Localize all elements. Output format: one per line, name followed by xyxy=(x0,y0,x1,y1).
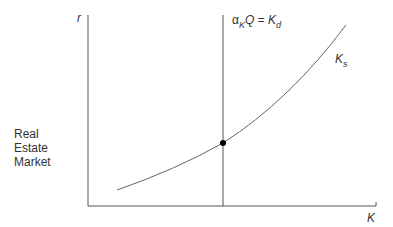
demand-line-label: αKQ = Kd xyxy=(232,13,282,30)
y-axis-label: r xyxy=(77,11,82,25)
supply-curve-ks xyxy=(117,25,346,190)
x-axis-label: K xyxy=(367,211,376,225)
equilibrium-point xyxy=(220,140,226,146)
kd-subscript: d xyxy=(276,20,282,30)
real-estate-market-diagram: r K αKQ = Kd Ks xyxy=(0,0,393,227)
supply-curve-label: Ks xyxy=(335,52,348,69)
alpha-symbol: α xyxy=(232,13,239,27)
equation-main: Q = K xyxy=(245,13,277,27)
